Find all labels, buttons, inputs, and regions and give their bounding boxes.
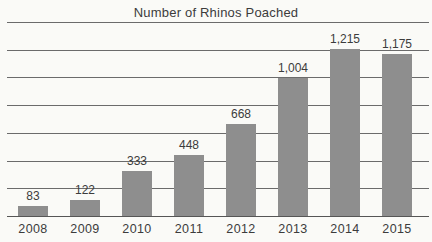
x-axis-label: 2010	[122, 223, 151, 236]
bar	[330, 49, 360, 217]
x-axis-label: 2011	[175, 223, 203, 236]
bar	[278, 78, 308, 217]
bar-value-label: 1,004	[278, 62, 308, 74]
bar-column: 1,1752015	[371, 23, 423, 217]
bar-value-label: 83	[26, 190, 39, 202]
x-axis-label: 2008	[18, 223, 47, 236]
bar-value-label: 1,175	[382, 38, 412, 50]
bar-column: 4482011	[163, 23, 215, 217]
x-axis-label: 2015	[382, 223, 411, 236]
x-axis-label: 2013	[278, 223, 307, 236]
bar-value-label: 333	[127, 155, 147, 167]
x-axis-label: 2009	[70, 223, 99, 236]
x-axis-line	[7, 216, 429, 217]
bar-value-label: 122	[75, 184, 95, 196]
bar	[382, 54, 412, 217]
plot-area: 83200812220093332010448201166820121,0042…	[7, 23, 429, 217]
bar-column: 1222009	[59, 23, 111, 217]
bar	[122, 171, 152, 217]
bar-value-label: 668	[231, 108, 251, 120]
bar-column: 832008	[7, 23, 59, 217]
bar-columns: 83200812220093332010448201166820121,0042…	[7, 23, 423, 217]
bar-column: 1,0042013	[267, 23, 319, 217]
bar	[174, 155, 204, 217]
bar	[70, 200, 100, 217]
bar-column: 6682012	[215, 23, 267, 217]
x-axis-label: 2012	[226, 223, 255, 236]
x-axis-label: 2014	[330, 223, 359, 236]
bar-column: 1,2152014	[319, 23, 371, 217]
chart-title: Number of Rhinos Poached	[0, 5, 432, 20]
bar-value-label: 448	[179, 139, 199, 151]
bar	[226, 124, 256, 217]
bar-value-label: 1,215	[330, 33, 360, 45]
rhino-poaching-bar-chart: Number of Rhinos Poached 832008122200933…	[0, 0, 432, 242]
bar-column: 3332010	[111, 23, 163, 217]
